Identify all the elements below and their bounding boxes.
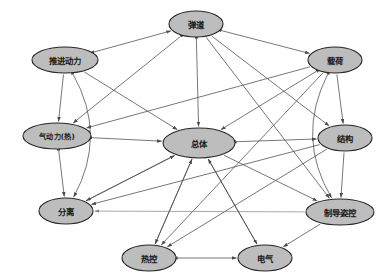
system-relationship-diagram: 弹道推进动力载荷气动力(热)总体结构分离制导姿控热控电气 [0,0,391,280]
edge-qidongli-to-fenli [59,150,65,196]
node-label-zaihe: 载荷 [327,56,344,66]
node-label-dandao: 弹道 [188,20,205,30]
node-tuijin[interactable]: 推进动力 [32,47,98,73]
edge-dianqi-to-zongti [208,159,257,244]
node-zhidao[interactable]: 制导姿控 [306,199,374,225]
edge-zhidao-to-fenli [95,211,305,212]
edge-rekong-to-zongti [155,159,192,244]
edge-zaihe-to-jiegou [337,74,343,123]
edge-zongti-to-zhidao [224,155,317,201]
edge-zongti-to-jiegou [236,139,316,142]
edge-tuijin-to-dandao [94,31,171,52]
node-label-dianqi: 电气 [257,254,274,264]
edge-zhidao-to-dianqi [283,224,320,247]
node-layer: 弹道推进动力载荷气动力(热)总体结构分离制导姿控热控电气 [23,11,374,271]
node-zongti[interactable]: 总体 [163,128,235,158]
edge-dandao-to-jiegou [212,36,329,126]
node-label-fenli: 分离 [58,207,75,217]
node-label-rekong: 热控 [141,254,158,264]
node-dianqi[interactable]: 电气 [238,245,292,271]
graph-canvas: 弹道推进动力载荷气动力(热)总体结构分离制导姿控热控电气 [0,0,391,280]
node-dandao[interactable]: 弹道 [169,11,223,37]
node-zaihe[interactable]: 载荷 [308,47,362,73]
node-label-jiegou: 结构 [337,134,354,144]
node-label-zhidao: 制导姿控 [324,208,358,218]
node-rekong[interactable]: 热控 [122,245,176,271]
edge-tuijin-to-zongti [84,72,177,130]
node-qidongli[interactable]: 气动力(热) [23,123,91,149]
edge-dandao-to-zongti [196,39,198,127]
node-label-tuijin: 推进动力 [49,56,82,66]
node-jiegou[interactable]: 结构 [318,125,372,151]
node-fenli[interactable]: 分离 [39,198,93,224]
edge-tuijin-to-qidongli [59,74,64,121]
edge-dandao-to-qidongli [73,36,181,123]
edge-jiegou-to-zhidao [341,152,344,197]
edge-qidongli-to-zongti [92,138,161,141]
node-label-qidongli: 气动力(热) [38,132,75,141]
node-label-zongti: 总体 [191,139,208,149]
edge-dandao-to-zaihe [221,31,309,54]
edge-zaihe-to-rekong [161,73,322,245]
